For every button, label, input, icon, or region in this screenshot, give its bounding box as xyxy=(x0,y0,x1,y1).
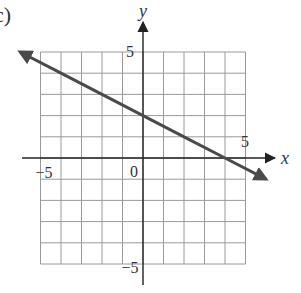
axes xyxy=(22,22,275,285)
coordinate-plane: 5−5−550xy xyxy=(0,0,301,293)
tick-labels: 5−5−550xy xyxy=(35,1,289,276)
problem-label: c) xyxy=(0,2,11,28)
x-tick-label-5: 5 xyxy=(241,133,249,150)
y-tick-label-5: 5 xyxy=(126,43,134,60)
x-axis-label: x xyxy=(280,148,289,168)
x-tick-label-neg5: −5 xyxy=(35,164,52,181)
y-tick-label-neg5: −5 xyxy=(121,259,138,276)
origin-label: 0 xyxy=(130,163,138,180)
y-axis-label: y xyxy=(137,1,147,21)
